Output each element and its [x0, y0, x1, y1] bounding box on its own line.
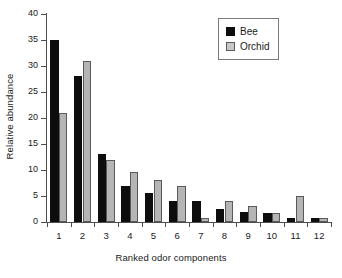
y-axis-tick-label: 35 — [12, 35, 38, 44]
x-axis-tick — [260, 222, 261, 227]
bar-bee-8 — [216, 209, 224, 222]
y-axis-tick-label: 5 — [12, 191, 38, 200]
x-axis-tick — [213, 222, 214, 227]
bar-orchid-10 — [272, 213, 280, 222]
bar-bee-7 — [192, 201, 200, 222]
x-axis-tick-label: 3 — [94, 230, 118, 241]
bar-bee-4 — [121, 186, 129, 222]
bar-bee-12 — [311, 218, 319, 222]
bar-bee-2 — [74, 76, 82, 222]
legend-swatch-orchid-icon — [226, 42, 235, 51]
y-axis-tick-label: 10 — [12, 165, 38, 174]
legend-swatch-bee-icon — [226, 27, 235, 36]
bar-orchid-7 — [201, 218, 209, 222]
x-axis-tick — [118, 222, 119, 227]
bar-orchid-1 — [59, 113, 67, 222]
x-axis-tick-label: 6 — [165, 230, 189, 241]
bar-bee-6 — [169, 201, 177, 222]
bar-orchid-3 — [106, 160, 114, 222]
y-axis-tick-label: 25 — [12, 87, 38, 96]
y-axis-tick-label: 40 — [12, 9, 38, 18]
bar-orchid-9 — [248, 206, 256, 222]
legend-label-bee: Bee — [240, 26, 258, 37]
x-axis-tick — [331, 222, 332, 227]
x-axis-tick-label: 2 — [71, 230, 95, 241]
x-axis-tick-label: 10 — [260, 230, 284, 241]
bar-bee-3 — [98, 154, 106, 222]
bar-chart-figure: Relative abundance 0510152025303540 1234… — [0, 0, 342, 278]
x-axis-tick — [284, 222, 285, 227]
x-axis-tick — [236, 222, 237, 227]
x-axis-title: Ranked odor components — [0, 252, 342, 263]
x-axis-tick-label: 4 — [118, 230, 142, 241]
y-axis-tick-label: 30 — [12, 61, 38, 70]
x-axis-tick-label: 8 — [213, 230, 237, 241]
x-axis-tick — [165, 222, 166, 227]
bar-orchid-2 — [83, 61, 91, 222]
y-axis-tick-label: 20 — [12, 113, 38, 122]
x-axis-tick-label: 11 — [284, 230, 308, 241]
x-axis-tick-label: 5 — [142, 230, 166, 241]
bar-orchid-8 — [225, 201, 233, 222]
bar-orchid-12 — [319, 218, 327, 222]
bar-orchid-11 — [296, 196, 304, 222]
bar-bee-5 — [145, 193, 153, 222]
bar-bee-9 — [240, 212, 248, 222]
y-axis-tick-label: 15 — [12, 139, 38, 148]
bar-orchid-5 — [154, 180, 162, 222]
x-axis-tick — [47, 222, 48, 227]
legend-item-orchid: Orchid — [226, 39, 269, 54]
x-axis-tick — [189, 222, 190, 227]
x-axis-tick-label: 1 — [47, 230, 71, 241]
x-axis-tick — [307, 222, 308, 227]
bar-bee-1 — [50, 40, 58, 222]
bar-bee-10 — [263, 213, 271, 222]
y-axis-tick-label: 0 — [12, 217, 38, 226]
x-axis-tick — [142, 222, 143, 227]
bar-orchid-4 — [130, 172, 138, 222]
bar-orchid-6 — [177, 186, 185, 222]
bar-bee-11 — [287, 218, 295, 222]
x-axis-tick-label: 9 — [236, 230, 260, 241]
legend-item-bee: Bee — [226, 24, 269, 39]
x-axis-tick-label: 12 — [307, 230, 331, 241]
legend-label-orchid: Orchid — [240, 41, 269, 52]
x-axis-tick-label: 7 — [189, 230, 213, 241]
plot-area — [47, 14, 331, 222]
chart-legend: Bee Orchid — [218, 18, 279, 60]
x-axis-tick — [71, 222, 72, 227]
x-axis-tick — [94, 222, 95, 227]
